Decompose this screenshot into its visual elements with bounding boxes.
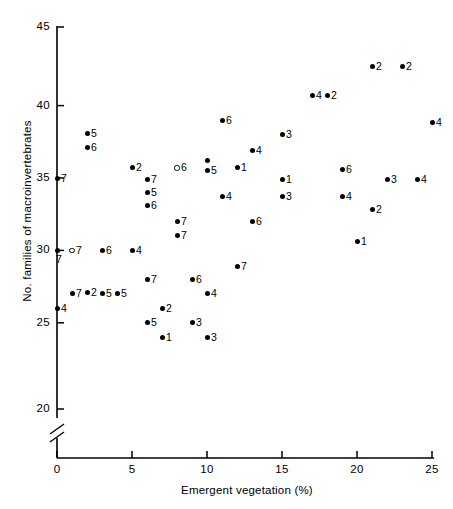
data-point bbox=[160, 335, 165, 340]
axis-break-slash-1 bbox=[50, 424, 64, 434]
data-point-label: 2 bbox=[331, 90, 337, 101]
data-point bbox=[415, 177, 420, 182]
data-point bbox=[235, 165, 240, 170]
x-axis-ticks bbox=[57, 451, 432, 458]
data-point-label: 7 bbox=[56, 254, 62, 265]
y-axis-title: No. families of macroinvertebrates bbox=[21, 91, 33, 331]
data-point-label: 6 bbox=[151, 200, 157, 211]
data-point-label: 7 bbox=[151, 174, 157, 185]
data-point-label: 3 bbox=[286, 129, 292, 140]
data-point bbox=[130, 165, 135, 170]
data-point bbox=[310, 93, 315, 98]
data-point-label: 4 bbox=[211, 288, 217, 299]
data-point-label: 7 bbox=[181, 216, 187, 227]
data-point bbox=[220, 194, 225, 199]
x-tick-label: 0 bbox=[47, 463, 67, 475]
data-point bbox=[145, 277, 150, 282]
data-point bbox=[340, 194, 345, 199]
data-point bbox=[100, 248, 105, 253]
data-point-label: 3 bbox=[196, 317, 202, 328]
data-point-label: 6 bbox=[106, 245, 112, 256]
y-axis-ticks bbox=[57, 27, 64, 409]
data-point bbox=[235, 264, 240, 269]
y-tick-label: 45 bbox=[24, 20, 50, 32]
data-point-label: 4 bbox=[346, 191, 352, 202]
data-point-label: 4 bbox=[316, 90, 322, 101]
data-point bbox=[400, 64, 405, 69]
x-tick-label: 10 bbox=[197, 463, 217, 475]
data-point bbox=[175, 219, 180, 224]
plot-axes bbox=[0, 0, 453, 509]
data-point-label: 7 bbox=[76, 288, 82, 299]
data-point bbox=[85, 145, 90, 150]
scatter-plot-figure: No. families of macroinvertebrates Emerg… bbox=[0, 0, 453, 509]
data-point bbox=[174, 165, 179, 170]
data-point bbox=[145, 190, 150, 195]
x-tick-label: 25 bbox=[422, 463, 442, 475]
data-point-label: 2 bbox=[166, 303, 172, 314]
data-point bbox=[100, 291, 105, 296]
data-point-label: 2 bbox=[376, 204, 382, 215]
data-point-label: 4 bbox=[136, 245, 142, 256]
data-point bbox=[355, 239, 360, 244]
data-point-label: 7 bbox=[61, 173, 67, 184]
data-point bbox=[190, 277, 195, 282]
y-tick-label: 20 bbox=[24, 402, 50, 414]
y-tick-label: 25 bbox=[24, 316, 50, 328]
data-point-label: 4 bbox=[61, 303, 67, 314]
data-point-label: 6 bbox=[226, 115, 232, 126]
data-point bbox=[85, 131, 90, 136]
data-point-label: 5 bbox=[151, 317, 157, 328]
data-point bbox=[69, 248, 74, 253]
data-point-label: 2 bbox=[406, 61, 412, 72]
x-axis-title: Emergent vegetation (%) bbox=[57, 484, 437, 496]
data-point-label: 1 bbox=[361, 236, 367, 247]
data-point bbox=[145, 177, 150, 182]
y-tick-label: 30 bbox=[24, 243, 50, 255]
data-point bbox=[280, 177, 285, 182]
data-point-label: 6 bbox=[256, 216, 262, 227]
x-tick-label: 5 bbox=[122, 463, 142, 475]
data-point bbox=[55, 306, 60, 311]
data-point bbox=[55, 248, 60, 253]
data-point bbox=[160, 306, 165, 311]
data-point bbox=[250, 219, 255, 224]
data-point-label: 3 bbox=[211, 332, 217, 343]
data-point-label: 5 bbox=[91, 128, 97, 139]
data-point-label: 4 bbox=[226, 191, 232, 202]
x-tick-label: 15 bbox=[272, 463, 292, 475]
data-point-label: 2 bbox=[376, 61, 382, 72]
data-point-label: 3 bbox=[286, 191, 292, 202]
data-point-label: 5 bbox=[211, 165, 217, 176]
data-point-label: 1 bbox=[166, 332, 172, 343]
data-point-label: 3 bbox=[391, 174, 397, 185]
data-point bbox=[280, 194, 285, 199]
data-point bbox=[325, 93, 330, 98]
data-point bbox=[220, 118, 225, 123]
data-point-label: 2 bbox=[136, 162, 142, 173]
data-point bbox=[205, 158, 210, 163]
data-point bbox=[205, 291, 210, 296]
data-point-label: 6 bbox=[181, 162, 187, 173]
data-point-label: 6 bbox=[196, 274, 202, 285]
y-tick-label: 40 bbox=[24, 99, 50, 111]
data-point bbox=[205, 168, 210, 173]
data-point-label: 4 bbox=[256, 145, 262, 156]
data-point bbox=[340, 167, 345, 172]
data-point bbox=[145, 203, 150, 208]
data-point-label: 5 bbox=[106, 288, 112, 299]
data-point-label: 4 bbox=[421, 174, 427, 185]
data-point-label: 7 bbox=[76, 245, 82, 256]
data-point bbox=[70, 291, 75, 296]
data-point bbox=[280, 132, 285, 137]
data-point bbox=[145, 320, 150, 325]
data-point-label: 7 bbox=[181, 230, 187, 241]
data-point bbox=[130, 248, 135, 253]
data-point bbox=[175, 233, 180, 238]
data-point bbox=[55, 176, 60, 181]
x-tick-label: 20 bbox=[347, 463, 367, 475]
data-point bbox=[85, 290, 90, 295]
data-point-label: 2 bbox=[91, 287, 97, 298]
data-point bbox=[370, 207, 375, 212]
data-point-label: 6 bbox=[346, 164, 352, 175]
